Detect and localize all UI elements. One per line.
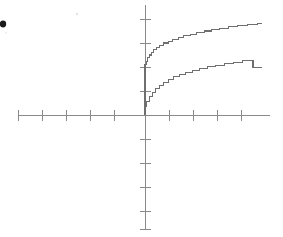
graph-figure: [0, 0, 283, 237]
scan-speck: [76, 13, 78, 15]
bullet-dot-layer: [0, 0, 283, 237]
scan-speck: [5, 32, 6, 33]
bullet-dot-icon: [0, 21, 6, 28]
